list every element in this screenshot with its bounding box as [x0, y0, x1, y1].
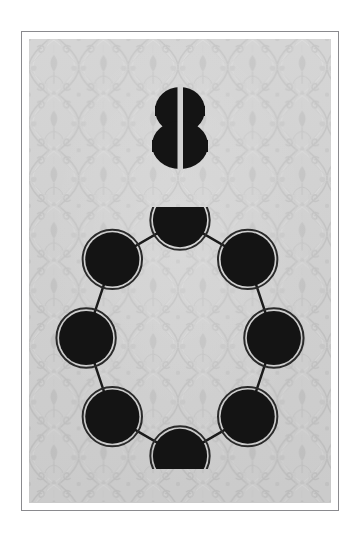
pip-group: [56, 207, 303, 469]
pip-top: [150, 207, 209, 250]
card-white-mat: [22, 32, 338, 510]
card-border-frame: [21, 31, 339, 511]
pip-right: [244, 308, 303, 367]
pip-top-left: [83, 230, 142, 289]
pip-bottom-right: [218, 387, 277, 446]
pip-bottom: [150, 426, 209, 469]
pip-left: [56, 308, 115, 367]
pip-bottom-left: [83, 387, 142, 446]
card-page: [0, 0, 360, 542]
card-patterned-field: [29, 39, 331, 503]
pip-top-right: [218, 230, 277, 289]
card-pip-area: [29, 207, 331, 469]
